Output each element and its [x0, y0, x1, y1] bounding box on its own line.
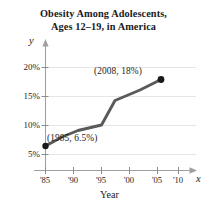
y-tick-label-15: 15% — [12, 91, 40, 101]
data-point-marker-1985 — [42, 143, 48, 149]
y-axis-arrowhead — [42, 39, 48, 47]
data-point-marker-2008 — [158, 76, 165, 83]
y-axis-variable-label: y — [29, 35, 34, 46]
y-tick-label-5: 5% — [12, 149, 40, 159]
x-tick-label-95: '95 — [89, 175, 113, 185]
x-tick-label-10: '10 — [166, 175, 190, 185]
x-axis-variable-label: x — [196, 173, 201, 184]
chart-figure: Obesity Among Adolescents, Ages 12–19, i… — [0, 0, 207, 209]
x-tick-label-00: '00 — [117, 175, 141, 185]
y-tick-label-20: 20% — [12, 62, 40, 72]
x-tick-label-90: '90 — [61, 175, 85, 185]
annotation-2008: (2008, 18%) — [94, 66, 142, 76]
x-axis-title: Year — [6, 189, 207, 200]
annotation-1985: (1985, 6.5%) — [47, 133, 97, 143]
x-tick-label-85: '85 — [33, 175, 57, 185]
y-tick-label-10: 10% — [12, 120, 40, 130]
